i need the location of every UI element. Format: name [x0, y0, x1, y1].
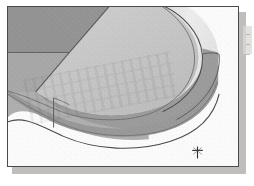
margin-mark-2 — [246, 44, 250, 45]
solid-model-svg — [8, 7, 238, 166]
figure-frame — [7, 6, 239, 167]
margin-mark-3 — [246, 54, 250, 55]
figure-page — [0, 0, 254, 186]
solid-model-illustration — [8, 7, 238, 166]
margin-scan-marks — [246, 34, 253, 70]
margin-mark-1 — [246, 34, 250, 35]
